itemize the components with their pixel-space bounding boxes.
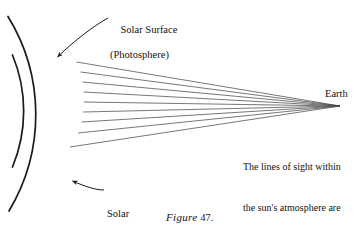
solar-surface-leader-group <box>58 18 109 57</box>
figure-caption-number: 47. <box>200 212 213 223</box>
note-line-1: The lines of sight within <box>243 160 341 174</box>
solar-surface-arc-group <box>13 55 24 167</box>
figure-container: Solar Surface (Photosphere) Earth Solar … <box>0 0 361 237</box>
label-solar-surface: Solar Surface (Photosphere) <box>110 12 177 86</box>
solar-atmosphere-arc-group <box>8 17 36 212</box>
figure-caption-label: Figure <box>166 211 197 223</box>
solar-atmosphere-arc <box>8 17 36 212</box>
note-lines-of-sight: The lines of sight within the sun's atmo… <box>243 133 341 237</box>
solar-surface-arc <box>13 55 24 167</box>
note-line-2: the sun's atmosphere are <box>243 201 341 215</box>
label-solar-atmosphere-line1: Solar <box>95 208 146 220</box>
line-of-sight-6 <box>83 106 340 112</box>
solar-surface-leader-line <box>58 18 109 57</box>
label-solar-surface-line1: Solar Surface <box>121 24 178 35</box>
label-solar-surface-line2: (Photosphere) <box>110 49 177 61</box>
figure-caption: Figure 47. <box>166 211 214 224</box>
label-solar-atmosphere: Solar Atmosphere <box>95 183 146 237</box>
label-earth: Earth <box>325 88 348 100</box>
